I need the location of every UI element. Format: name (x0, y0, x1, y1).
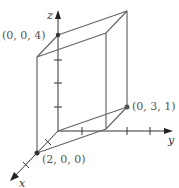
label-0-3-1: (0, 3, 1) (132, 100, 176, 113)
parallelepiped-diagram: (0, 0, 4) (0, 3, 1) (2, 0, 0) z y x (0, 0, 179, 188)
y-axis-label: y (167, 134, 175, 147)
point-2-0-0 (35, 151, 40, 156)
z-axis-label: z (46, 9, 53, 22)
point-0-3-1 (125, 105, 130, 110)
label-2-0-0: (2, 0, 0) (42, 153, 86, 166)
z-arrowhead-icon (55, 10, 61, 19)
x-axis-label: x (19, 177, 26, 188)
label-0-0-4: (0, 0, 4) (2, 29, 46, 42)
point-0-0-4 (56, 33, 60, 37)
